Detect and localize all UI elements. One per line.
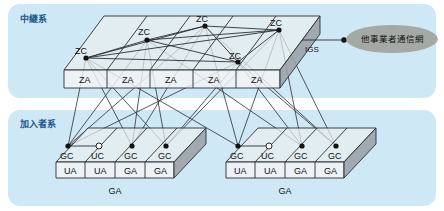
gc-node	[235, 143, 240, 148]
subscriber-group-label: GA	[278, 186, 291, 196]
trunk-panel-label: 中継系	[20, 13, 47, 24]
zc-node	[144, 37, 149, 42]
trunk-cell-label: ZA	[251, 75, 263, 85]
zc-node-label: ZC	[75, 46, 87, 56]
trunk-cell-label: ZA	[208, 75, 220, 85]
subscriber-cell-label: GA	[324, 166, 337, 176]
trunk-cell-label: ZA	[122, 75, 134, 85]
external-network-label: 他事業者通信網	[361, 34, 424, 44]
gc-node	[129, 143, 134, 148]
gc-node	[163, 143, 168, 148]
igs-label: IGS	[305, 45, 319, 54]
subscriber-cell-label: UA	[234, 166, 247, 176]
gc-node-label: GC	[158, 151, 172, 161]
zc-node-label: ZC	[229, 51, 241, 61]
subscriber-cell-label: GA	[154, 166, 167, 176]
uc-node	[266, 143, 272, 149]
zc-node-label: ZC	[138, 27, 150, 37]
trunk-cell-label: ZA	[165, 75, 177, 85]
igs-node	[341, 37, 347, 43]
uc-node	[96, 143, 102, 149]
network-topology-diagram: ZA ZA ZA ZA ZA ZC ZC	[0, 0, 444, 211]
trunk-cell-label: ZA	[79, 75, 91, 85]
subscriber-cell-label: GA	[124, 166, 137, 176]
subscriber-group-label: GA	[108, 186, 121, 196]
gc-node	[299, 143, 304, 148]
subscriber-cell-label: GA	[294, 166, 307, 176]
zc-node	[83, 55, 88, 60]
zc-node-label: ZC	[196, 14, 208, 24]
gc-node-label: GC	[328, 151, 342, 161]
subscriber-cell-label: UA	[64, 166, 77, 176]
subscriber-panel-label: 加入者系	[19, 118, 56, 129]
gc-node-label: GC	[230, 151, 244, 161]
zc-node-label: ZC	[270, 18, 282, 28]
gc-node-label: GC	[294, 151, 308, 161]
zc-node	[202, 23, 207, 28]
zc-node	[276, 27, 281, 32]
subscriber-cell-label: UA	[94, 166, 107, 176]
uc-node-label: UC	[261, 151, 274, 161]
gc-node-label: GC	[60, 151, 74, 161]
gc-node-label: GC	[124, 151, 138, 161]
gc-node	[333, 143, 338, 148]
uc-node-label: UC	[91, 151, 104, 161]
gc-node	[65, 143, 70, 148]
subscriber-cell-label: UA	[264, 166, 277, 176]
diagram-canvas: ZA ZA ZA ZA ZA ZC ZC	[0, 0, 444, 211]
